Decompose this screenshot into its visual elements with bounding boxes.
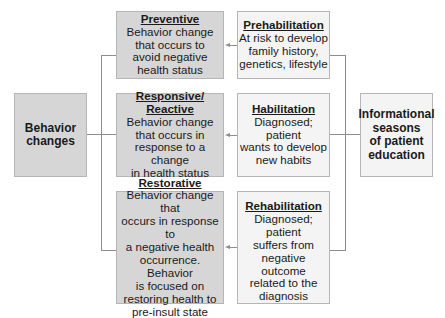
habilitation-title: Habilitation <box>252 103 315 116</box>
prehabilitation-text-3: genetics, lifestyle <box>239 58 327 71</box>
informational-label-2: seasons <box>372 122 420 136</box>
rehabilitation-text-2: suffers from <box>253 239 314 252</box>
behavior-changes-label-2: changes <box>26 135 75 149</box>
connector-right-vertical <box>345 55 346 251</box>
responsive-title-1: Responsive/ <box>136 90 204 103</box>
connector-left-vertical <box>101 55 102 251</box>
restorative-text-5: is focused on <box>136 280 204 293</box>
rehabilitation-text-3: negative outcome <box>238 252 329 278</box>
connector-left-horizontal <box>87 134 101 135</box>
connector-right-to-prehab <box>330 55 345 56</box>
rehabilitation-text-5: diagnosis <box>259 290 308 303</box>
connector-left-to-preventive <box>101 55 116 56</box>
preventive-text-1: Behavior change <box>126 26 213 39</box>
rehabilitation-text-1: Diagnosed; patient <box>238 213 329 239</box>
restorative-text-6: restoring health to <box>124 293 217 306</box>
responsive-title-2: Reactive <box>146 103 194 116</box>
informational-seasons-box: Informational seasons of patient educati… <box>360 93 433 177</box>
habilitation-text-1: Diagnosed; patient <box>238 116 329 142</box>
preventive-title: Preventive <box>141 13 200 26</box>
responsive-text-3: response to a change <box>117 141 223 167</box>
connector-right-horizontal <box>345 134 360 135</box>
preventive-text-4: health status <box>137 64 203 77</box>
restorative-text-1: Behavior change that <box>117 189 223 215</box>
habilitation-box: Habilitation Diagnosed; patient wants to… <box>237 93 330 177</box>
arrow-head-icon <box>225 43 230 47</box>
connector-left-to-restorative <box>101 250 116 251</box>
arrow-head-icon <box>225 133 230 137</box>
restorative-text-4: occurrence. Behavior <box>117 254 223 280</box>
connector-right-to-hab <box>330 134 345 135</box>
rehabilitation-box: Rehabilitation Diagnosed; patient suffer… <box>237 191 330 304</box>
preventive-box: Preventive Behavior change that occurs t… <box>116 11 224 79</box>
rehabilitation-title: Rehabilitation <box>245 200 322 213</box>
informational-label-4: education <box>368 149 425 163</box>
habilitation-text-3: new habits <box>256 154 311 167</box>
behavior-changes-label-1: Behavior <box>25 122 76 136</box>
responsive-text-1: Behavior change <box>126 116 213 129</box>
informational-label-3: of patient <box>370 135 424 149</box>
restorative-text-7: pre-insult state <box>132 306 208 318</box>
behavior-changes-box: Behavior changes <box>14 93 87 177</box>
connector-right-to-rehab <box>330 250 345 251</box>
arrow-head-icon <box>225 245 230 249</box>
restorative-text-2: occurs in response to <box>117 215 223 241</box>
responsive-box: Responsive/ Reactive Behavior change tha… <box>116 93 224 177</box>
informational-label-1: Informational <box>359 108 435 122</box>
prehabilitation-text-2: family history, <box>248 45 318 58</box>
prehabilitation-box: Prehabilitation At risk to develop famil… <box>237 11 330 79</box>
restorative-box: Restorative Behavior change that occurs … <box>116 191 224 304</box>
connector-left-to-responsive <box>101 134 116 135</box>
